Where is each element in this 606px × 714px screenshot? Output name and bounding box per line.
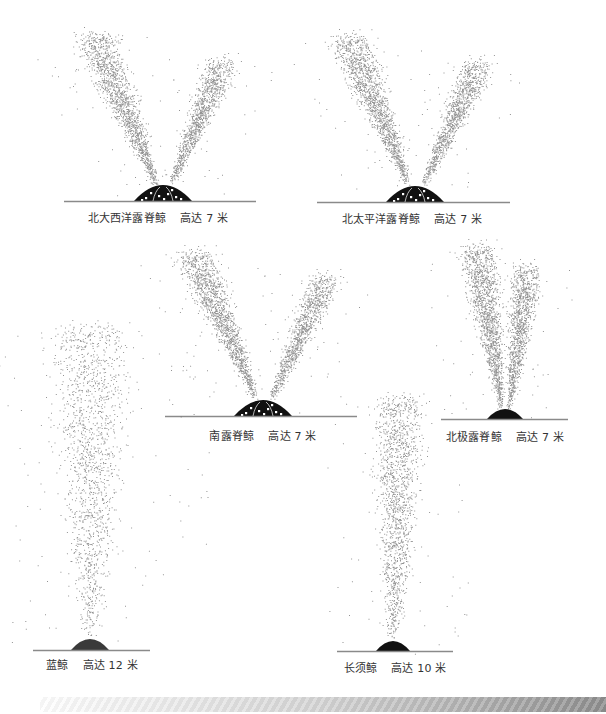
callosity-spot <box>150 192 152 194</box>
callosity-spot <box>271 404 273 406</box>
callosity-spot <box>415 199 417 201</box>
spray-droplets <box>431 239 573 418</box>
spray-droplets <box>38 27 273 196</box>
spout-north-pacific-humpback <box>294 29 520 203</box>
height-value: 高达 7 米 <box>268 430 316 443</box>
species-name: 北大西洋露脊鲸 <box>88 212 166 225</box>
callosity-spot <box>158 195 160 197</box>
species-name: 北太平洋露脊鲸 <box>342 213 420 226</box>
callosity-spot <box>397 198 399 200</box>
species-name: 蓝鲸 <box>46 659 68 672</box>
callosity-spot <box>275 411 277 413</box>
spray-droplets <box>0 320 214 647</box>
height-value: 高达 12 米 <box>83 659 138 672</box>
callosity-spot <box>258 410 260 412</box>
label-north-pacific-humpback: 北太平洋露脊鲸高达 7 米 <box>342 210 483 226</box>
footer-gradient-band <box>40 697 606 712</box>
spout-bowhead <box>431 239 573 420</box>
label-fin-whale: 长须鲸高达 10 米 <box>344 659 447 675</box>
callosity-spot <box>145 197 147 199</box>
callosity-spot <box>175 196 177 198</box>
whale-blow-diagram <box>0 0 606 714</box>
height-value: 高达 10 米 <box>391 662 446 675</box>
spray-droplets <box>141 245 369 414</box>
label-blue-whale: 蓝鲸高达 12 米 <box>46 656 138 672</box>
callosity-spot <box>171 189 173 191</box>
callosity-spot <box>163 198 165 200</box>
callosity-spot <box>267 408 269 410</box>
spout-southern-right <box>141 245 369 417</box>
callosity-spot <box>280 413 282 415</box>
spout-north-atlantic-humpback <box>38 27 273 202</box>
height-value: 高达 7 米 <box>434 213 482 226</box>
whale-back-icon <box>487 409 523 419</box>
spout-blue-whale <box>0 320 214 651</box>
callosity-spot <box>167 193 169 195</box>
callosity-spot <box>432 199 434 201</box>
whale-back-icon <box>376 641 410 651</box>
callosity-spot <box>263 413 265 415</box>
callosity-spot <box>419 194 421 196</box>
species-name: 长须鲸 <box>344 662 378 675</box>
height-value: 高达 7 米 <box>516 431 564 444</box>
callosity-spot <box>402 193 404 195</box>
label-southern-right: 南露脊鲸高达 7 米 <box>209 427 316 443</box>
spray-droplets <box>294 29 520 199</box>
label-north-atlantic-humpback: 北大西洋露脊鲸高达 7 米 <box>88 209 229 225</box>
callosity-spot <box>410 196 412 198</box>
callosity-spot <box>423 190 425 192</box>
callosity-spot <box>180 198 182 200</box>
callosity-spot <box>427 197 429 199</box>
species-name: 南露脊鲸 <box>209 430 254 443</box>
species-name: 北极露脊鲸 <box>446 431 502 444</box>
callosity-spot <box>250 407 252 409</box>
label-bowhead: 北极露脊鲸高达 7 米 <box>446 428 564 444</box>
callosity-spot <box>245 412 247 414</box>
whale-back-icon <box>71 639 109 650</box>
height-value: 高达 7 米 <box>180 212 228 225</box>
